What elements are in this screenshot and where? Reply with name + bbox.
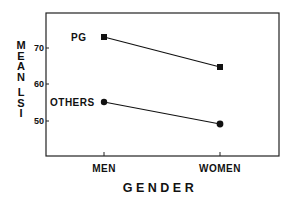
ytick-label-70: 70 <box>28 43 44 53</box>
y-axis-title-letter: L <box>14 87 28 98</box>
series-pg-point-men <box>101 34 107 40</box>
series-label-pg: PG <box>71 32 86 43</box>
series-label-others: OTHERS <box>50 97 95 108</box>
x-axis-title: GENDER <box>110 181 210 195</box>
series-others-line <box>104 102 220 124</box>
series-others-point-men <box>101 99 107 105</box>
y-axis-title-lsi: L S I <box>14 87 28 119</box>
y-axis-title-mean: M E A N <box>14 40 28 82</box>
series-pg-point-women <box>217 64 223 70</box>
y-axis-title-letter: N <box>14 72 28 83</box>
series-pg-line <box>104 37 220 67</box>
xcat-label-men: MEN <box>74 163 134 174</box>
ytick-label-50: 50 <box>28 116 44 126</box>
y-axis-title-letter: M <box>14 40 28 51</box>
line-chart <box>0 0 296 202</box>
series-others-point-women <box>217 121 224 128</box>
ytick-label-60: 60 <box>28 79 44 89</box>
xcat-label-women: WOMEN <box>190 163 250 174</box>
y-axis-title-letter: I <box>14 108 28 119</box>
y-axis-title-letter: A <box>14 61 28 72</box>
